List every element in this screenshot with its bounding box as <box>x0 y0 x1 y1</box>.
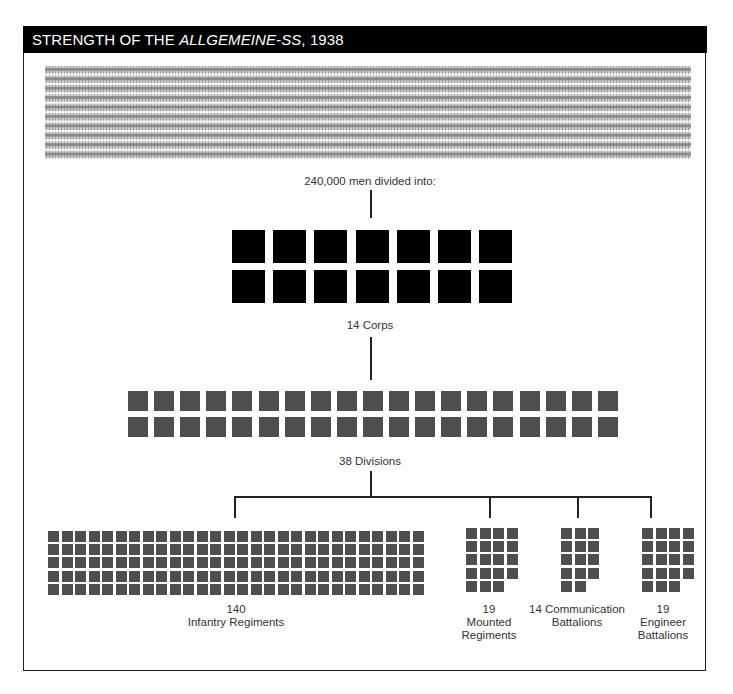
infantry-block <box>332 571 343 582</box>
engineer-name-1: Engineer <box>625 616 701 629</box>
infantry-block <box>170 544 181 555</box>
infantry-block <box>210 584 221 595</box>
division-block <box>154 391 174 411</box>
connector-line <box>370 337 372 380</box>
infantry-block <box>210 544 221 555</box>
infantry-block <box>372 557 383 568</box>
engineer-block <box>642 581 653 592</box>
division-block <box>285 391 305 411</box>
division-block <box>154 417 174 437</box>
division-block <box>493 417 513 437</box>
infantry-block <box>62 584 73 595</box>
infantry-block <box>75 531 86 542</box>
infantry-block <box>89 571 100 582</box>
division-block <box>128 391 148 411</box>
infantry-block <box>48 544 59 555</box>
infantry-block <box>413 544 424 555</box>
infantry-block <box>197 557 208 568</box>
engineer-block <box>656 528 667 539</box>
communication-block <box>575 568 586 579</box>
infantry-block <box>75 571 86 582</box>
infantry-block <box>278 531 289 542</box>
infantry-block <box>386 531 397 542</box>
infantry-block <box>345 571 356 582</box>
title-prefix: STRENGTH OF THE <box>32 31 179 48</box>
infantry-block <box>237 531 248 542</box>
infantry-block <box>413 571 424 582</box>
infantry-block <box>278 571 289 582</box>
division-block <box>598 391 618 411</box>
infantry-block <box>102 557 113 568</box>
total-men-label: 240,000 men divided into: <box>270 175 470 188</box>
division-block <box>467 391 487 411</box>
infantry-block <box>399 584 410 595</box>
communication-block <box>561 554 572 565</box>
infantry-block <box>48 531 59 542</box>
mounted-block <box>480 581 491 592</box>
infantry-block <box>75 584 86 595</box>
communication-block <box>588 554 599 565</box>
infantry-block <box>318 557 329 568</box>
engineer-block <box>683 528 694 539</box>
division-block <box>337 417 357 437</box>
connector-line <box>370 190 372 218</box>
infantry-block <box>183 544 194 555</box>
mounted-block <box>480 528 491 539</box>
infantry-block <box>278 557 289 568</box>
communication-label: 14 Communication Battalions <box>523 603 631 629</box>
infantry-block <box>386 584 397 595</box>
infantry-block <box>305 557 316 568</box>
infantry-block <box>197 571 208 582</box>
infantry-block <box>237 544 248 555</box>
division-block <box>546 391 566 411</box>
division-block <box>389 391 409 411</box>
division-block <box>572 391 592 411</box>
corps-block <box>232 270 265 303</box>
infantry-block <box>332 531 343 542</box>
division-block <box>441 417 461 437</box>
mounted-label: 19 Mounted Regiments <box>451 603 527 642</box>
infantry-block <box>251 571 262 582</box>
mounted-block <box>493 528 504 539</box>
engineer-block <box>669 528 680 539</box>
division-block <box>441 391 461 411</box>
engineer-block <box>669 541 680 552</box>
infantry-block <box>318 584 329 595</box>
division-block <box>206 417 226 437</box>
communication-block <box>561 581 572 592</box>
men-figures-icon <box>45 66 691 160</box>
infantry-block <box>129 544 140 555</box>
infantry-block <box>156 531 167 542</box>
corps-block <box>438 270 471 303</box>
division-block <box>259 417 279 437</box>
infantry-block <box>251 584 262 595</box>
mounted-name-1: Mounted <box>451 616 527 629</box>
communication-block <box>588 528 599 539</box>
infantry-block <box>129 571 140 582</box>
mounted-block <box>466 541 477 552</box>
engineer-block <box>656 581 667 592</box>
infantry-block <box>359 557 370 568</box>
infantry-block <box>251 531 262 542</box>
infantry-block <box>129 557 140 568</box>
infantry-block <box>318 531 329 542</box>
engineer-block <box>642 541 653 552</box>
mounted-name-2: Regiments <box>451 629 527 642</box>
infantry-block <box>197 544 208 555</box>
division-block <box>363 391 383 411</box>
infantry-name: Infantry Regiments <box>136 616 336 629</box>
engineer-block <box>669 554 680 565</box>
infantry-block <box>372 584 383 595</box>
communication-block <box>561 568 572 579</box>
corps-block <box>479 270 512 303</box>
infantry-block <box>224 544 235 555</box>
corps-label: 14 Corps <box>320 319 420 332</box>
infantry-block <box>75 544 86 555</box>
infantry-block <box>48 557 59 568</box>
infantry-block <box>399 571 410 582</box>
infantry-block <box>386 557 397 568</box>
division-block <box>232 391 252 411</box>
engineer-count: 19 <box>625 603 701 616</box>
infantry-block <box>156 544 167 555</box>
infantry-block <box>170 531 181 542</box>
